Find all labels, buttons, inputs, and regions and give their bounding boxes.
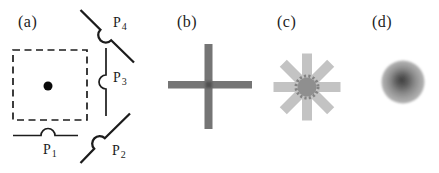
probe-p3-subscript: 3 bbox=[122, 76, 127, 87]
probe-p3-symbol bbox=[99, 48, 106, 116]
probe-p1-symbol bbox=[13, 129, 78, 136]
panel-d-blob-pattern bbox=[382, 61, 425, 104]
panel-d-label: (d) bbox=[372, 14, 392, 30]
gradient-blob bbox=[382, 61, 425, 104]
probe-p4-symbol bbox=[81, 10, 135, 63]
probe-p4-symbol-text: P bbox=[113, 15, 121, 30]
probe-label-p2: P2 bbox=[112, 144, 125, 158]
probe-p2-subscript: 2 bbox=[121, 149, 126, 160]
panel-b-label: (b) bbox=[177, 14, 197, 30]
probe-p1-subscript: 1 bbox=[52, 148, 57, 159]
probe-label-p4: P4 bbox=[113, 16, 126, 30]
probe-label-p3: P3 bbox=[113, 71, 126, 85]
probe-p4-subscript: 4 bbox=[122, 21, 127, 32]
panel-c-label: (c) bbox=[277, 14, 296, 30]
probe-label-p1: P1 bbox=[43, 143, 56, 157]
panel-a-label: (a) bbox=[18, 14, 37, 30]
source-dot bbox=[44, 82, 53, 91]
panel-a-schematic bbox=[13, 10, 134, 163]
star-core bbox=[298, 78, 317, 97]
panel-c-star-pattern bbox=[274, 54, 341, 121]
multi-panel-figure: (a) (b) (c) (d) P1 P2 P3 P4 bbox=[0, 0, 439, 173]
probe-p1-symbol-text: P bbox=[43, 142, 51, 157]
cross-center-spot bbox=[206, 82, 213, 89]
probe-p3-symbol-text: P bbox=[113, 70, 121, 85]
probe-p2-symbol-text: P bbox=[112, 143, 120, 158]
panel-b-cross-pattern bbox=[168, 44, 252, 129]
